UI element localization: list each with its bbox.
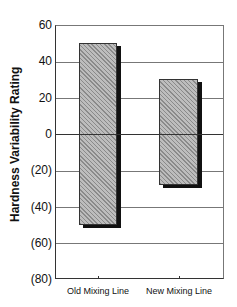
zero-line xyxy=(56,134,223,135)
y-tick-label: 0 xyxy=(45,127,52,141)
y-axis-label: Hardness Variability Rating xyxy=(8,82,22,222)
x-category-label: Old Mixing Line xyxy=(67,286,129,296)
x-tick-mark xyxy=(179,276,180,279)
y-tick-label: (40) xyxy=(31,200,52,214)
y-tick-label: 40 xyxy=(39,54,52,68)
gridline xyxy=(56,243,223,244)
y-tick-label: (80) xyxy=(31,272,52,286)
bar-new-mixing-line xyxy=(159,79,198,185)
y-tick-label: 20 xyxy=(39,91,52,105)
y-tick-label: (60) xyxy=(31,236,52,250)
x-tick-mark xyxy=(98,276,99,279)
y-tick-label: 60 xyxy=(39,18,52,32)
x-category-label: New Mixing Line xyxy=(146,286,212,296)
y-tick-label: (20) xyxy=(31,163,52,177)
plot-area xyxy=(55,25,224,279)
